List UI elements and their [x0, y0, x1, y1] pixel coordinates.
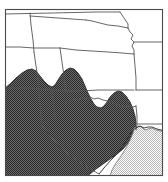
map-canvas — [0, 0, 168, 182]
thematic-map-figure — [0, 0, 168, 182]
map-body — [5, 9, 163, 176]
